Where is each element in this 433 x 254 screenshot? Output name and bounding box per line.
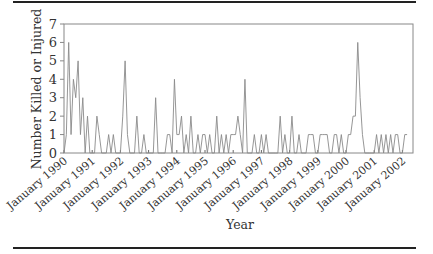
y-tick-label: 2: [49, 109, 57, 124]
line-chart: Number Killed or Injured 01234567 Januar…: [0, 0, 433, 254]
x-axis-ticks: January 1990January 1991January 1992Janu…: [4, 150, 409, 213]
y-tick-label: 5: [49, 53, 57, 68]
y-axis-label: Number Killed or Injured: [29, 9, 44, 170]
x-axis-label: Year: [225, 217, 254, 232]
y-tick-label: 7: [49, 17, 57, 32]
y-tick-label: 6: [49, 35, 57, 50]
data-line: [64, 42, 407, 153]
y-tick-label: 3: [49, 90, 57, 105]
y-tick-label: 4: [49, 72, 57, 87]
y-axis-label-group: Number Killed or Injured: [29, 9, 44, 170]
y-tick-label: 1: [49, 127, 57, 142]
plot-frame: [64, 24, 413, 153]
y-axis-ticks: 01234567: [49, 17, 64, 161]
